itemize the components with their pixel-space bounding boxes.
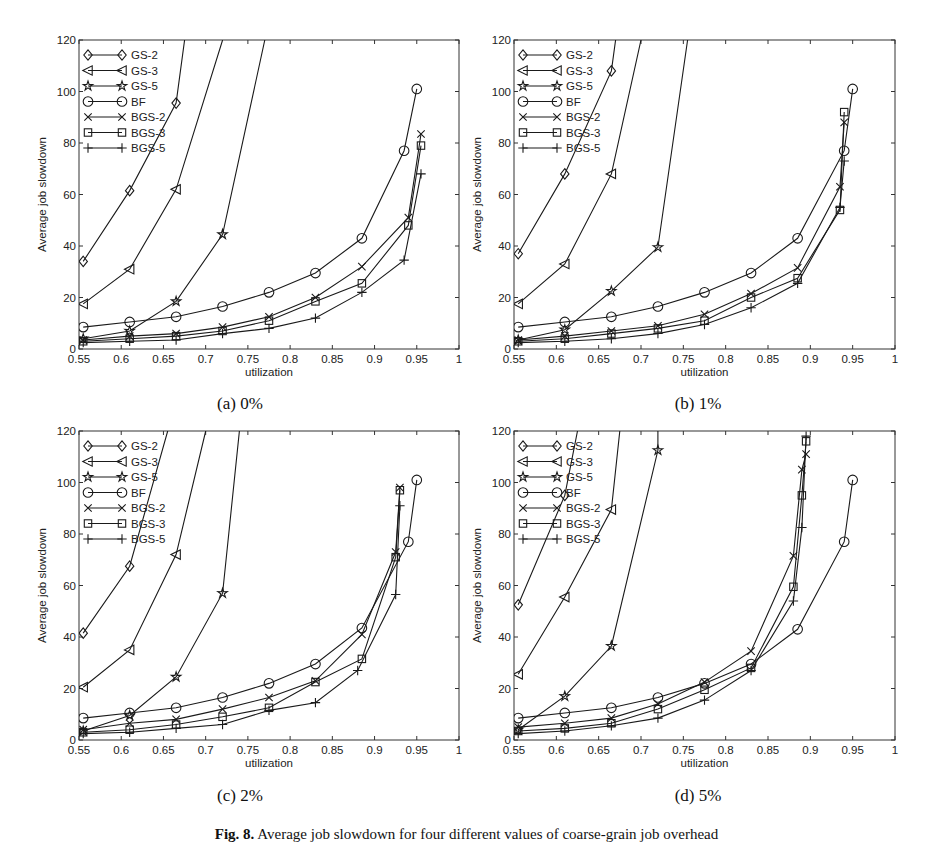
x-tick-label: 0.8 — [282, 744, 298, 756]
legend-label: GS-2 — [566, 49, 593, 61]
y-tick-label: 80 — [498, 528, 511, 540]
chart-panel-c: 0.550.60.650.70.750.80.850.90.9510204060… — [36, 425, 462, 769]
x-tick-label: 0.9 — [367, 353, 383, 365]
y-tick-label: 120 — [492, 34, 511, 46]
legend-label: BGS-5 — [131, 142, 166, 154]
figure-caption-label: Fig. 8. — [215, 826, 255, 842]
legend-label: BGS-5 — [131, 533, 166, 545]
legend-label: GS-3 — [566, 65, 593, 77]
legend-label: GS-2 — [131, 49, 158, 61]
x-tick-label: 0.6 — [113, 353, 129, 365]
x-tick-label: 0.65 — [152, 353, 174, 365]
x-tick-label: 0.75 — [672, 744, 694, 756]
x-tick-label: 0.7 — [198, 353, 214, 365]
subcaption-d: (d) 5% — [675, 786, 722, 806]
x-tick-label: 0.85 — [321, 744, 343, 756]
y-tick-label: 20 — [498, 683, 511, 695]
x-tick-label: 0.75 — [672, 353, 694, 365]
chart-panel-a: 0.550.60.650.70.750.80.850.90.9510204060… — [36, 34, 462, 378]
x-tick-label: 0.9 — [802, 744, 818, 756]
x-axis-label: utilization — [681, 757, 729, 769]
x-tick-label: 0.7 — [633, 744, 649, 756]
chart-panel-b: 0.550.60.650.70.750.80.850.90.9510204060… — [471, 34, 898, 378]
y-tick-label: 80 — [498, 137, 511, 149]
x-tick-label: 0.65 — [587, 353, 609, 365]
x-tick-label: 0.8 — [282, 353, 298, 365]
legend-label: BF — [566, 96, 581, 108]
legend-label: BF — [131, 96, 146, 108]
legend-label: GS-5 — [131, 471, 158, 483]
legend-label: BGS-5 — [566, 533, 601, 545]
legend-label: BGS-3 — [566, 127, 601, 139]
x-tick-label: 1 — [892, 744, 898, 756]
y-tick-label: 100 — [492, 86, 511, 98]
y-tick-label: 20 — [63, 683, 76, 695]
legend-label: BGS-3 — [131, 518, 166, 530]
y-tick-label: 40 — [498, 631, 511, 643]
x-tick-label: 0.8 — [718, 744, 734, 756]
x-tick-label: 1 — [456, 744, 462, 756]
legend-label: GS-3 — [131, 65, 158, 77]
y-tick-label: 100 — [492, 477, 511, 489]
y-tick-label: 120 — [57, 425, 76, 437]
y-axis-label: Average job slowdown — [36, 528, 48, 643]
x-tick-label: 0.95 — [841, 744, 863, 756]
y-tick-label: 100 — [57, 477, 76, 489]
x-tick-label: 0.7 — [633, 353, 649, 365]
y-tick-label: 40 — [498, 240, 511, 252]
x-tick-label: 0.85 — [757, 353, 779, 365]
figure-caption-text: Average job slowdown for four different … — [257, 826, 718, 842]
legend-label: BF — [566, 487, 581, 499]
y-tick-label: 0 — [505, 343, 511, 355]
legend-label: GS-3 — [566, 456, 593, 468]
x-tick-label: 0.6 — [548, 744, 564, 756]
legend-label: GS-2 — [131, 440, 158, 452]
y-tick-label: 0 — [70, 343, 76, 355]
y-tick-label: 20 — [63, 292, 76, 304]
x-axis-label: utilization — [245, 757, 293, 769]
subcaption-a: (a) 0% — [217, 394, 263, 414]
y-tick-label: 60 — [63, 189, 76, 201]
legend-label: BGS-5 — [566, 142, 601, 154]
legend-label: BGS-2 — [131, 111, 166, 123]
x-tick-label: 0.65 — [587, 744, 609, 756]
x-tick-label: 0.7 — [198, 744, 214, 756]
x-tick-label: 0.6 — [548, 353, 564, 365]
legend-label: BGS-2 — [566, 111, 601, 123]
x-tick-label: 0.75 — [237, 744, 259, 756]
y-tick-label: 0 — [70, 734, 76, 746]
y-tick-label: 100 — [57, 86, 76, 98]
legend-label: BGS-3 — [566, 518, 601, 530]
y-axis-label: Average job slowdown — [471, 137, 483, 252]
x-tick-label: 0.6 — [113, 744, 129, 756]
y-tick-label: 40 — [63, 631, 76, 643]
legend-label: GS-5 — [566, 80, 593, 92]
y-tick-label: 0 — [505, 734, 511, 746]
figure-caption: Fig. 8. Average job slowdown for four di… — [0, 826, 933, 843]
x-tick-label: 0.95 — [406, 353, 428, 365]
legend-label: GS-5 — [566, 471, 593, 483]
y-tick-label: 120 — [492, 425, 511, 437]
x-tick-label: 0.9 — [802, 353, 818, 365]
x-tick-label: 0.65 — [152, 744, 174, 756]
legend-label: BGS-2 — [131, 502, 166, 514]
legend-label: BGS-3 — [131, 127, 166, 139]
x-tick-label: 0.85 — [321, 353, 343, 365]
x-tick-label: 0.95 — [841, 353, 863, 365]
y-axis-label: Average job slowdown — [36, 137, 48, 252]
y-tick-label: 20 — [498, 292, 511, 304]
legend-label: BGS-2 — [566, 502, 601, 514]
y-tick-label: 120 — [57, 34, 76, 46]
chart-panel-d: 0.550.60.650.70.750.80.850.90.9510204060… — [471, 425, 898, 769]
x-tick-label: 0.8 — [718, 353, 734, 365]
legend-label: GS-5 — [131, 80, 158, 92]
x-tick-label: 0.95 — [406, 744, 428, 756]
x-axis-label: utilization — [681, 366, 729, 378]
subcaption-c: (c) 2% — [217, 786, 263, 806]
x-tick-label: 1 — [456, 353, 462, 365]
x-tick-label: 0.9 — [367, 744, 383, 756]
x-tick-label: 0.75 — [237, 353, 259, 365]
y-axis-label: Average job slowdown — [471, 528, 483, 643]
